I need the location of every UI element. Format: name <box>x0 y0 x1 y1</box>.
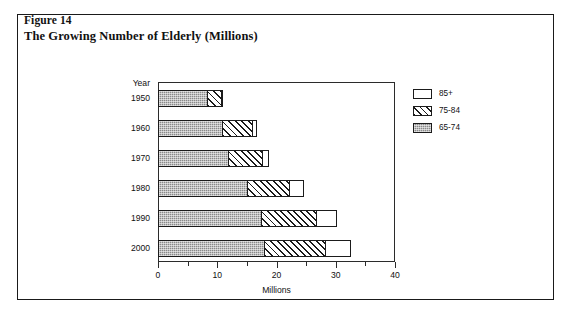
bar-segment-65-74 <box>158 210 262 227</box>
bar-row <box>158 180 303 197</box>
x-tick-label: 0 <box>156 270 161 280</box>
x-tick-major <box>336 262 337 268</box>
x-tick-major <box>277 262 278 268</box>
y-axis-label: 1950 <box>131 93 150 103</box>
legend-swatch-75-84 <box>413 106 432 116</box>
x-axis-ticks <box>158 262 395 269</box>
x-tick-major <box>217 262 218 268</box>
y-axis-label: 1970 <box>131 153 150 163</box>
bars-layer <box>158 82 395 262</box>
bar-row <box>158 120 256 137</box>
bar-segment-75-84 <box>228 150 264 167</box>
bar-segment-75-84 <box>207 90 222 107</box>
bar-segment-75-84 <box>247 180 290 197</box>
bar-row <box>158 210 335 227</box>
legend-label: 65-74 <box>439 123 460 132</box>
bar-segment-85+ <box>252 120 257 137</box>
bar-row <box>158 240 350 257</box>
y-axis-label: 1960 <box>131 123 150 133</box>
bar-segment-65-74 <box>158 90 208 107</box>
bar-row <box>158 150 268 167</box>
x-tick-major <box>395 262 396 268</box>
x-tick-minor <box>365 262 366 266</box>
legend-swatch-65-74 <box>413 123 432 133</box>
bar-segment-75-84 <box>222 120 253 137</box>
legend-item: 75-84 <box>413 105 460 116</box>
x-tick-major <box>158 262 159 268</box>
bar-segment-65-74 <box>158 240 265 257</box>
legend-item: 65-74 <box>413 122 460 133</box>
x-tick-minor <box>188 262 189 266</box>
x-tick-label: 20 <box>272 270 282 280</box>
bar-row <box>158 90 222 107</box>
legend-item: 85+ <box>413 88 460 99</box>
y-axis-labels: Year 195019601970198019902000 <box>0 0 156 317</box>
bar-segment-65-74 <box>158 150 229 167</box>
bar-segment-75-84 <box>264 240 326 257</box>
x-tick-label: 10 <box>212 270 222 280</box>
legend-label: 75-84 <box>439 106 460 115</box>
bar-segment-85+ <box>221 90 223 107</box>
legend-swatch-85+ <box>413 89 432 99</box>
bar-segment-85+ <box>289 180 304 197</box>
bar-segment-85+ <box>325 240 352 257</box>
x-tick-minor <box>306 262 307 266</box>
bar-segment-85+ <box>262 150 269 167</box>
x-axis-title: Millions <box>158 285 395 295</box>
chart-legend: 85+75-8465-74 <box>413 88 460 139</box>
y-axis-title: Year <box>133 78 150 88</box>
legend-label: 85+ <box>439 89 453 98</box>
bar-segment-85+ <box>316 210 337 227</box>
x-tick-label: 40 <box>390 270 400 280</box>
bar-segment-75-84 <box>261 210 317 227</box>
x-tick-minor <box>247 262 248 266</box>
y-axis-label: 1990 <box>131 213 150 223</box>
x-axis-tick-labels: 010203040 <box>158 270 395 282</box>
bar-segment-65-74 <box>158 120 223 137</box>
y-axis-label: 1980 <box>131 183 150 193</box>
bar-segment-65-74 <box>158 180 248 197</box>
x-tick-label: 30 <box>331 270 341 280</box>
y-axis-label: 2000 <box>131 243 150 253</box>
